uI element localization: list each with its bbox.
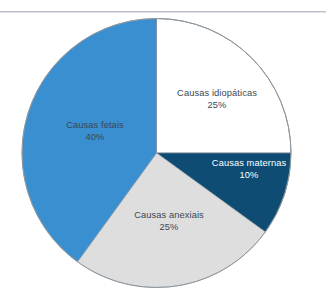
- pie-slices: [22, 19, 291, 288]
- pie-slice-causas-idiopaticas[interactable]: [157, 19, 292, 154]
- pie-label-value: 10%: [186, 170, 312, 182]
- page-canvas: Causas idiopáticas 25% Causas maternas 1…: [0, 0, 326, 303]
- pie-label-causas-maternas: Causas maternas 10%: [186, 158, 312, 182]
- pie-label-causas-fetais: Causas fetais 40%: [36, 120, 154, 144]
- pie-label-causas-anexiais: Causas anexiais 25%: [104, 210, 234, 234]
- pie-chart-svg: [0, 0, 326, 303]
- pie-label-name: Causas fetais: [36, 120, 154, 132]
- pie-label-name: Causas idiopáticas: [152, 88, 282, 100]
- pie-label-name: Causas maternas: [186, 158, 312, 170]
- pie-label-value: 40%: [36, 132, 154, 144]
- pie-chart: Causas idiopáticas 25% Causas maternas 1…: [0, 0, 326, 303]
- pie-label-value: 25%: [104, 222, 234, 234]
- pie-label-name: Causas anexiais: [104, 210, 234, 222]
- pie-label-value: 25%: [152, 100, 282, 112]
- pie-label-causas-idiopaticas: Causas idiopáticas 25%: [152, 88, 282, 112]
